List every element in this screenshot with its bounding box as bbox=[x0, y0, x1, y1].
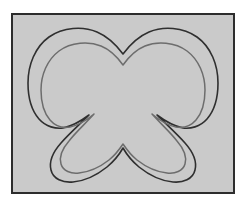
butterfly-drawing bbox=[13, 15, 233, 192]
figure-frame bbox=[11, 13, 235, 194]
plate-background bbox=[13, 15, 233, 192]
figure-canvas bbox=[0, 0, 245, 204]
